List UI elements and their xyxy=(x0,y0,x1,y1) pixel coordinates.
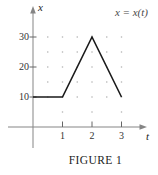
y-axis-arrow-icon xyxy=(30,6,36,14)
y-axis-label: x xyxy=(38,1,43,13)
grid-dot xyxy=(91,51,93,53)
y-tick-label: 30 xyxy=(12,31,29,43)
grid-dot xyxy=(62,51,64,53)
grid-dot xyxy=(91,111,93,113)
x-tick-label: 3 xyxy=(116,130,128,142)
grid-dot xyxy=(62,66,64,68)
grid-dot xyxy=(62,81,64,83)
curve-x-of-t xyxy=(33,37,122,97)
grid-dot xyxy=(121,51,123,53)
grid-dot xyxy=(121,66,123,68)
grid-dot xyxy=(76,36,78,38)
grid-dot xyxy=(47,36,49,38)
grid-dot xyxy=(76,96,78,98)
grid-dot xyxy=(47,51,49,53)
grid-dot xyxy=(106,36,108,38)
y-tick-label: 20 xyxy=(12,61,29,73)
plot-canvas xyxy=(0,0,158,175)
grid-dot xyxy=(106,51,108,53)
grid-dot xyxy=(76,81,78,83)
grid-dot xyxy=(91,81,93,83)
grid-dot xyxy=(91,96,93,98)
x-tick-label: 1 xyxy=(57,130,69,142)
grid-dot xyxy=(121,81,123,83)
grid-dot xyxy=(106,81,108,83)
grid-dot xyxy=(121,111,123,113)
grid-dot xyxy=(91,66,93,68)
x-axis-arrow-icon xyxy=(140,124,148,130)
grid-dot xyxy=(47,81,49,83)
grid-dot xyxy=(62,111,64,113)
grid-dot xyxy=(62,36,64,38)
y-tick-label: 10 xyxy=(12,91,29,103)
grid-dot xyxy=(76,51,78,53)
x-axis-label: t xyxy=(146,130,149,142)
grid-dot xyxy=(47,66,49,68)
x-tick-label: 2 xyxy=(86,130,98,142)
figure-1-plot: x t x = x(t) FIGURE 1 302010123 xyxy=(0,0,158,175)
curve-equation-title: x = x(t) xyxy=(115,6,148,18)
grid-dot xyxy=(106,96,108,98)
grid-dot xyxy=(121,36,123,38)
figure-caption: FIGURE 1 xyxy=(33,154,158,166)
